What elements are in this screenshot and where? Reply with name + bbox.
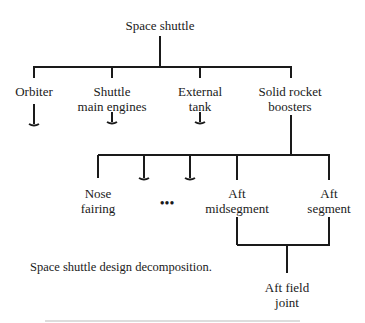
node-external-tank: External tank [178, 84, 222, 114]
figure-caption: Space shuttle design decomposition. [30, 260, 212, 275]
node-aft-midsegment: Aft midsegment [205, 186, 269, 216]
node-nose-fairing: Nose fairing [81, 186, 116, 216]
node-aft-field-joint: Aft field joint [265, 280, 309, 310]
node-space-shuttle: Space shuttle [126, 18, 195, 33]
node-solid-rocket-boosters: Solid rocket boosters [258, 84, 321, 114]
ellipsis: ••• [160, 196, 175, 211]
node-aft-segment: Aft segment [307, 186, 350, 216]
node-shuttle-main-engines: Shuttle main engines [78, 84, 147, 114]
node-orbiter: Orbiter [15, 84, 53, 99]
